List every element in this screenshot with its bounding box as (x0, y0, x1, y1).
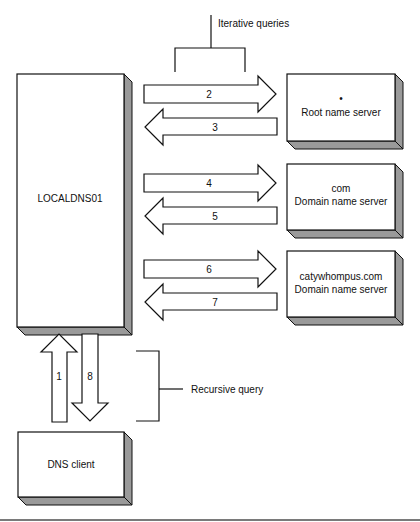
com-server-line2: Domain name server (295, 196, 388, 207)
arrow-2-label: 2 (206, 89, 212, 100)
arrow-step-7: 7 (145, 284, 277, 320)
root-dot: • (339, 93, 343, 104)
com-server-line1: com (332, 183, 351, 194)
arrow-step-6: 6 (144, 251, 276, 287)
arrow-step-2: 2 (144, 76, 276, 112)
arrow-4-label: 4 (206, 178, 212, 189)
catywhompus-name-server-box: catywhompus.com Domain name server (287, 251, 403, 325)
catywhompus-server-line1: catywhompus.com (300, 271, 383, 282)
arrow-step-5: 5 (145, 198, 277, 234)
iterative-queries-bracket: Iterative queries (175, 15, 289, 72)
arrow-5-label: 5 (212, 211, 218, 222)
arrow-7-label: 7 (212, 297, 218, 308)
recursive-query-bracket: Recursive query (136, 351, 263, 421)
recursive-query-label: Recursive query (191, 384, 263, 395)
com-name-server-box: com Domain name server (287, 164, 403, 238)
iterative-queries-label: Iterative queries (218, 18, 289, 29)
root-name-server-box: • Root name server (287, 74, 403, 149)
arrow-step-4: 4 (144, 165, 276, 201)
catywhompus-server-line2: Domain name server (295, 284, 388, 295)
dns-client-box: DNS client (18, 432, 132, 505)
local-dns-label: LOCALDNS01 (37, 193, 102, 204)
dns-resolution-diagram: LOCALDNS01 • Root name server com Domain… (0, 0, 420, 522)
arrow-3-label: 3 (212, 122, 218, 133)
root-server-label: Root name server (301, 107, 381, 118)
arrow-1-label: 1 (56, 371, 62, 382)
local-dns-server-box: LOCALDNS01 (17, 74, 132, 335)
bottom-rule-divider (0, 519, 420, 521)
arrow-step-3: 3 (145, 109, 277, 145)
arrow-step-1: 1 (41, 334, 77, 422)
arrow-step-8: 8 (72, 334, 108, 421)
arrow-8-label: 8 (87, 371, 93, 382)
dns-client-label: DNS client (47, 459, 94, 470)
arrow-6-label: 6 (206, 264, 212, 275)
